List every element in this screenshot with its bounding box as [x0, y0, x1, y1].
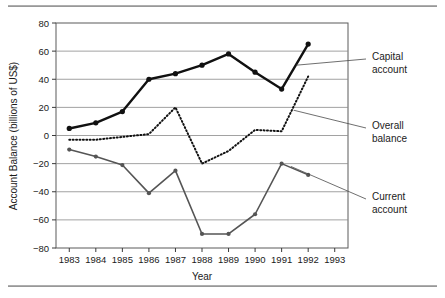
annotation-label-line1: Capital [372, 51, 403, 62]
data-point-marker [200, 232, 204, 236]
data-point-marker [147, 191, 151, 195]
x-axis-title: Year [192, 271, 213, 282]
annotation-label-line1: Current [372, 191, 406, 202]
annotation-label-line2: account [372, 64, 407, 75]
data-point-marker [93, 120, 98, 125]
x-tick-label: 1988 [191, 254, 212, 265]
data-point-marker [67, 126, 72, 131]
y-tick-label: −80 [33, 243, 49, 254]
x-tick-label: 1985 [112, 254, 133, 265]
y-tick-label: −60 [33, 214, 49, 225]
line-chart: 806040200−20−40−60−80 198319841985198619… [0, 0, 445, 298]
data-point-marker [199, 63, 204, 68]
data-point-marker [120, 163, 124, 167]
y-tick-label: 60 [38, 46, 49, 57]
x-axis-ticks: 1983198419851986198719881989199019911992… [59, 248, 346, 265]
annotation-label-line2: balance [372, 133, 407, 144]
bottom-divider-rule [8, 285, 437, 287]
data-point-marker [253, 212, 257, 216]
top-divider-rule [8, 5, 437, 7]
data-point-marker [173, 71, 178, 76]
x-tick-label: 1986 [138, 254, 159, 265]
y-tick-label: 80 [38, 18, 49, 29]
data-point-marker [252, 70, 257, 75]
annotation-label-line1: Overall [372, 120, 404, 131]
y-tick-label: 0 [44, 130, 49, 141]
x-tick-label: 1990 [245, 254, 266, 265]
y-tick-label: 40 [38, 74, 49, 85]
data-point-marker [226, 232, 230, 236]
figure-container: 806040200−20−40−60−80 198319841985198619… [0, 0, 445, 298]
x-tick-label: 1984 [85, 254, 106, 265]
data-point-marker [280, 162, 284, 166]
data-point-marker [94, 154, 98, 158]
data-point-marker [226, 51, 231, 56]
x-tick-label: 1993 [324, 254, 345, 265]
data-point-marker [279, 86, 284, 91]
y-axis-ticks: 806040200−20−40−60−80 [33, 18, 56, 254]
x-tick-label: 1983 [59, 254, 80, 265]
x-tick-label: 1992 [298, 254, 319, 265]
x-tick-label: 1987 [165, 254, 186, 265]
data-point-marker [120, 109, 125, 114]
y-axis-title: Account Balance (billions of US$) [8, 62, 19, 210]
y-tick-label: −40 [33, 186, 49, 197]
data-point-marker [146, 77, 151, 82]
data-point-marker [173, 169, 177, 173]
x-tick-label: 1989 [218, 254, 239, 265]
y-tick-label: 20 [38, 102, 49, 113]
annotation-label-line2: account [372, 204, 407, 215]
x-tick-label: 1991 [271, 254, 292, 265]
data-point-marker [306, 41, 311, 46]
y-tick-label: −20 [33, 158, 49, 169]
data-point-marker [67, 147, 71, 151]
